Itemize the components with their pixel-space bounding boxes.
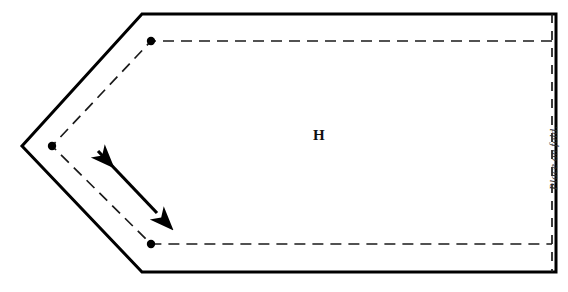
match-dot-point — [48, 142, 56, 150]
grainline-arrow — [98, 151, 157, 213]
match-dot-top — [147, 37, 155, 45]
match-dot-bottom — [147, 240, 155, 248]
place-on-fold-label: Place on fold. — [547, 126, 559, 190]
piece-letter-label: H — [313, 128, 325, 143]
pattern-drawing — [0, 0, 568, 292]
cutting-line — [22, 14, 556, 272]
stitching-line — [52, 41, 552, 244]
pattern-sheet: H Place on fold. — [0, 0, 568, 292]
